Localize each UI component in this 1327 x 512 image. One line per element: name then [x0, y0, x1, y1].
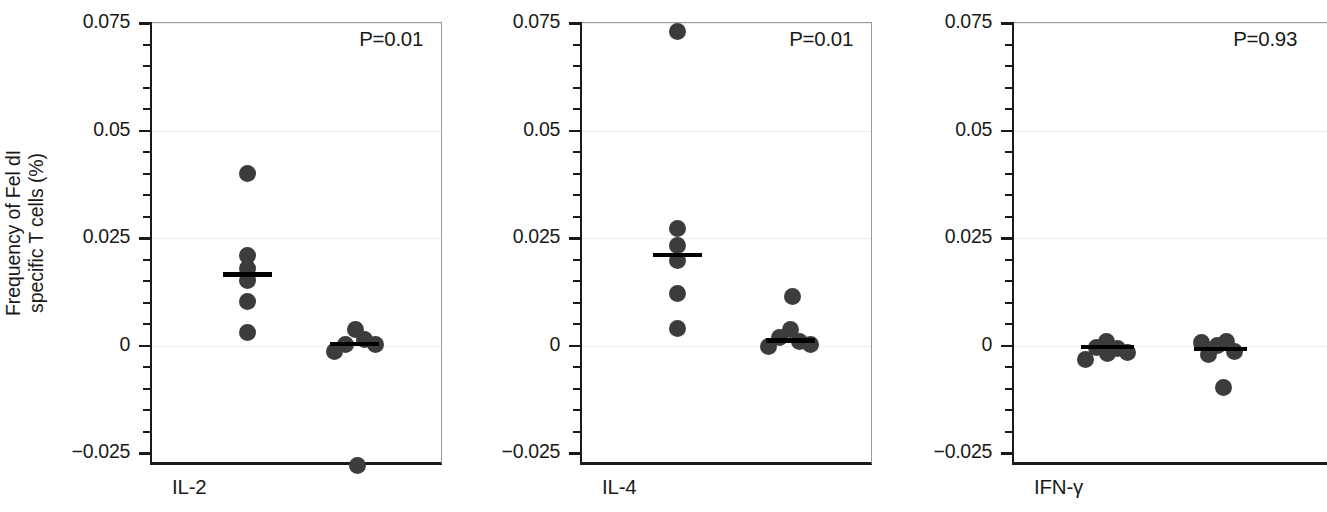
y-axis-minor-tick	[143, 44, 152, 46]
y-axis-tick-labels: 0.0750.050.0250−0.025	[44, 0, 136, 512]
y-axis-minor-tick	[143, 87, 152, 89]
y-axis-major-tick	[1001, 452, 1014, 455]
y-axis-minor-tick	[573, 323, 582, 325]
gridline	[582, 238, 871, 239]
gridline	[152, 238, 441, 239]
p-value-annotation: P=0.01	[789, 29, 853, 50]
y-axis-label: Frequency of Fel dIspecific T cells (%)	[2, 0, 48, 466]
y-axis-minor-tick	[143, 65, 152, 67]
y-axis-minor-tick	[573, 194, 582, 196]
y-axis-minor-tick	[143, 151, 152, 153]
y-axis-minor-tick	[1005, 409, 1014, 411]
y-axis-major-tick	[139, 22, 152, 25]
y-axis-tick-label: 0.075	[83, 12, 130, 32]
y-axis-minor-tick	[573, 173, 582, 175]
y-axis-minor-tick	[573, 151, 582, 153]
p-value-annotation: P=0.01	[359, 29, 423, 50]
y-axis-minor-tick	[1005, 323, 1014, 325]
gridline	[152, 131, 441, 132]
data-point	[669, 23, 686, 40]
y-axis-tick-label: −0.025	[72, 442, 130, 462]
y-axis-minor-tick	[573, 431, 582, 433]
y-axis-minor-tick	[573, 302, 582, 304]
y-axis-major-tick	[569, 237, 582, 240]
y-axis-minor-tick	[573, 87, 582, 89]
gridline	[1014, 346, 1327, 347]
x-axis-label: IL-2	[172, 477, 207, 498]
y-axis-tick-label: −0.025	[502, 442, 560, 462]
gridline	[152, 23, 441, 24]
y-axis-major-tick	[1001, 345, 1014, 348]
x-axis-label: IFN-γ	[1034, 477, 1083, 498]
gridline	[1014, 131, 1327, 132]
y-axis-minor-tick	[573, 280, 582, 282]
median-bar	[330, 342, 379, 347]
data-point	[239, 293, 256, 310]
y-axis-minor-tick	[143, 302, 152, 304]
gridline	[1014, 238, 1327, 239]
y-axis-minor-tick	[573, 108, 582, 110]
y-axis-major-tick	[569, 22, 582, 25]
y-axis-tick-label: 0.025	[83, 227, 130, 247]
y-axis-label-line-1: Frequency of Fel dI	[2, 150, 25, 316]
y-axis-minor-tick	[573, 65, 582, 67]
y-axis-minor-tick	[143, 216, 152, 218]
y-axis-minor-tick	[143, 194, 152, 196]
y-axis-major-tick	[569, 452, 582, 455]
data-point	[239, 324, 256, 341]
y-axis-minor-tick	[143, 280, 152, 282]
data-point	[1215, 379, 1232, 396]
y-axis-minor-tick	[1005, 65, 1014, 67]
y-axis-major-tick	[139, 345, 152, 348]
y-axis-minor-tick	[143, 409, 152, 411]
y-axis-tick-label: 0.05	[523, 120, 560, 140]
y-axis-minor-tick	[143, 388, 152, 390]
median-bar	[223, 272, 272, 277]
median-bar	[1194, 347, 1247, 352]
y-axis-major-tick	[1001, 130, 1014, 133]
y-axis-tick-label: 0.025	[513, 227, 560, 247]
gridline	[582, 23, 871, 24]
y-axis-tick-label: 0.05	[955, 120, 992, 140]
y-axis-minor-tick	[1005, 216, 1014, 218]
y-axis-major-tick	[139, 452, 152, 455]
plot-area: P=0.01	[580, 22, 872, 465]
y-axis-tick-label: 0.05	[93, 120, 130, 140]
y-axis-minor-tick	[573, 388, 582, 390]
y-axis-tick-labels: 0.0750.050.0250−0.025	[906, 0, 998, 512]
x-axis-label: IL-4	[602, 477, 637, 498]
data-point	[669, 220, 686, 237]
y-axis-minor-tick	[573, 366, 582, 368]
y-axis-minor-tick	[1005, 366, 1014, 368]
y-axis-minor-tick	[1005, 388, 1014, 390]
data-point	[239, 165, 256, 182]
y-axis-minor-tick	[143, 323, 152, 325]
data-point	[349, 457, 366, 474]
y-axis-minor-tick	[143, 108, 152, 110]
y-axis-tick-label: 0.075	[945, 12, 992, 32]
y-axis-minor-tick	[1005, 151, 1014, 153]
figure-scatter-panels: Frequency of Fel dIspecific T cells (%)0…	[0, 0, 1327, 512]
plot-area: P=0.01	[150, 22, 442, 465]
y-axis-tick-labels: 0.0750.050.0250−0.025	[474, 0, 566, 512]
y-axis-major-tick	[569, 130, 582, 133]
y-axis-minor-tick	[1005, 87, 1014, 89]
median-bar	[653, 253, 702, 258]
gridline	[582, 131, 871, 132]
y-axis-tick-label: −0.025	[934, 442, 992, 462]
y-axis-minor-tick	[143, 173, 152, 175]
median-bar	[1081, 345, 1134, 350]
gridline	[152, 346, 441, 347]
p-value-annotation: P=0.93	[1233, 29, 1297, 50]
y-axis-minor-tick	[573, 216, 582, 218]
y-axis-minor-tick	[573, 259, 582, 261]
data-point	[784, 288, 801, 305]
plot-area: P=0.93	[1012, 22, 1327, 465]
gridline	[582, 346, 871, 347]
y-axis-major-tick	[139, 130, 152, 133]
y-axis-minor-tick	[1005, 431, 1014, 433]
gridline	[1014, 23, 1327, 24]
y-axis-minor-tick	[143, 366, 152, 368]
y-axis-tick-label: 0	[549, 335, 560, 355]
y-axis-minor-tick	[573, 409, 582, 411]
